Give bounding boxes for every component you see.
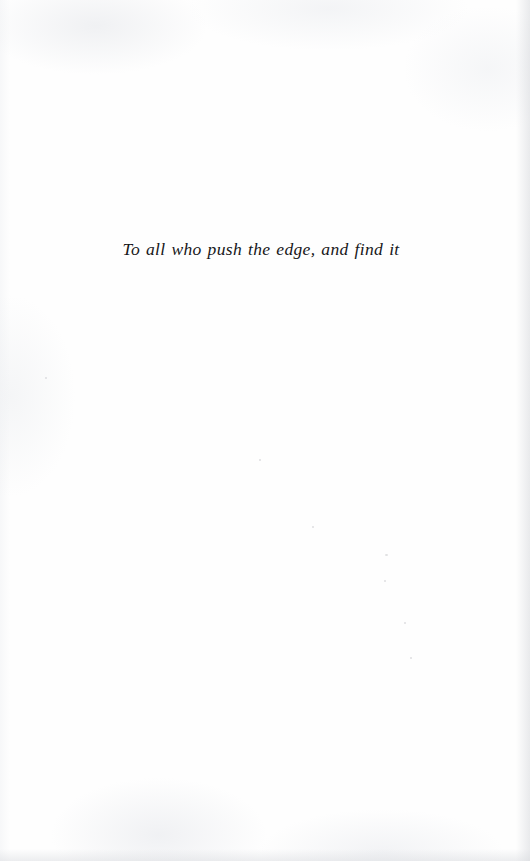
scan-edge-shadow [0, 0, 530, 861]
scan-speck-mid [312, 526, 314, 528]
scan-speck-bottom [404, 622, 406, 624]
scan-speck-lower [384, 580, 386, 582]
dedication-text: To all who push the edge, and find it [122, 236, 399, 262]
scan-speck-left [45, 377, 47, 379]
scan-speck-upper [259, 459, 261, 461]
scan-speck-right [385, 554, 388, 556]
dedication-page: To all who push the edge, and find it [0, 0, 530, 861]
scan-speck-edge [410, 657, 412, 659]
paper-texture [0, 0, 530, 861]
dedication-block: To all who push the edge, and find it [0, 236, 530, 262]
